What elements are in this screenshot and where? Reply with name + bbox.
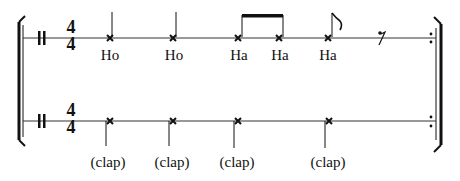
lyric-2: Ho [165, 48, 183, 63]
lyric-1: Ho [101, 48, 119, 63]
system-bracket-left [19, 16, 25, 146]
clap-label-4: (clap) [311, 155, 346, 170]
lyric-3: Ha [230, 48, 248, 63]
lyric-5: Ha [319, 48, 337, 63]
bottom-staff-notes [106, 118, 332, 148]
lyric-4: Ha [271, 48, 289, 63]
clap-label-1: (clap) [91, 155, 126, 170]
repeat-dots [430, 33, 433, 128]
time-sig-denominator-bottom: 4 [67, 118, 76, 136]
top-staff-notes [107, 12, 385, 45]
clap-label-3: (clap) [220, 155, 255, 170]
repeat-bracket-right [434, 17, 441, 152]
percussion-clef-icon [38, 31, 46, 128]
time-sig-denominator-top: 4 [67, 35, 76, 53]
clap-label-2: (clap) [155, 155, 190, 170]
